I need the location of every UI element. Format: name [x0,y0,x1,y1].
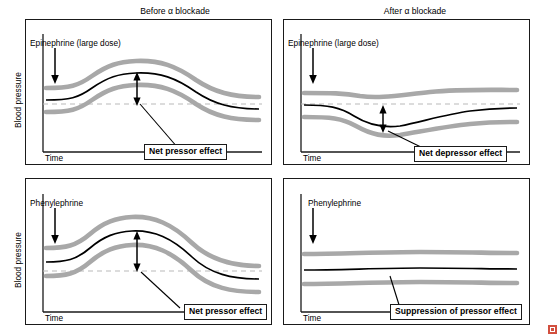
callout-top-right: Net depressor effect [414,146,507,162]
diastolic-envelope-top-left [46,85,259,120]
y-axis-label-bottom: Blood pressure [13,232,23,288]
effect-arrow-head-up-top-right [379,105,386,114]
systolic-envelope-top-right [304,90,517,97]
diastolic-envelope-top-right [304,117,517,136]
callout-bottom-left: Net pressor effect [184,304,267,320]
diagram-traces [0,0,559,336]
x-axis-label-top-right: Time [303,153,321,163]
axes-bottom-left [43,194,262,312]
systolic-envelope-top-left [46,61,259,97]
callout-leader-bottom-left [141,272,180,308]
callout-bottom-right: Suppression of pressor effect [390,304,522,320]
drug-arrow-head-bottom-left [51,235,59,244]
y-axis-label-top: Blood pressure [13,72,23,128]
x-axis-label-bottom-left: Time [45,313,63,323]
drug-label-bottom-left: Phenylephrine [30,198,83,208]
drug-label-bottom-right: Phenylephrine [308,198,361,208]
drug-arrow-head-bottom-right [309,235,317,244]
effect-arrow-head-down-top-left [133,98,140,107]
figure-root: Before α blockade After α blockade [0,0,559,336]
drug-label-top-right: Epinephrine (large dose) [288,38,379,48]
callout-top-left: Net pressor effect [144,144,227,160]
x-axis-label-bottom-right: Time [303,313,321,323]
diastolic-envelope-bottom-left [46,245,259,292]
effect-arrow-head-down-top-right [379,125,386,134]
effect-arrow-head-up-bottom-left [133,231,140,240]
systolic-envelope-bottom-left [46,217,259,266]
resize-corner-icon[interactable] [548,325,557,334]
systolic-envelope-bottom-right [304,252,517,254]
drug-arrow-head-top-left [51,75,59,84]
drug-label-top-left: Epinephrine (large dose) [30,38,121,48]
callout-leader-top-left [140,104,178,148]
mean-trace-bottom-right [304,268,517,270]
diastolic-envelope-bottom-right [304,282,517,284]
drug-arrow-head-top-right [309,75,317,84]
x-axis-label-top-left: Time [45,153,63,163]
